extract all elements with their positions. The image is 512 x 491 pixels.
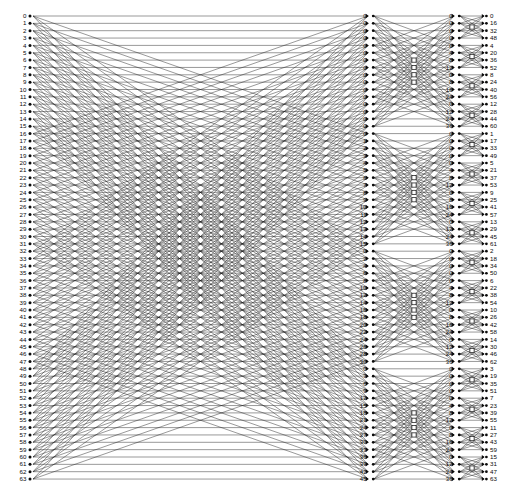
stage2-butterfly-junction — [412, 198, 416, 202]
output-index-label: 10 — [490, 306, 497, 313]
stage2-node — [372, 279, 375, 282]
stage3-node — [458, 397, 461, 400]
input-node — [29, 250, 32, 253]
output-index-label: 46 — [490, 350, 497, 357]
output-index-label: 44 — [490, 115, 497, 122]
stage2-twiddle-label: 12 — [360, 292, 367, 298]
stage3-node — [458, 478, 461, 481]
input-index-label: 40 — [20, 306, 27, 313]
output-index-label: 7 — [490, 394, 494, 401]
stage3-node — [458, 375, 461, 378]
stage2-node — [372, 404, 375, 407]
output-node — [485, 220, 488, 223]
input-node — [29, 44, 32, 47]
stage2-node — [372, 51, 375, 54]
input-node — [29, 463, 32, 466]
output-node — [485, 338, 488, 341]
output-node — [485, 118, 488, 121]
stage2-twiddle-label: 15 — [360, 403, 367, 409]
stage3-butterfly-junction — [470, 172, 474, 176]
input-node — [29, 242, 32, 245]
stage2-node — [372, 316, 375, 319]
input-index-label: 15 — [20, 122, 27, 129]
stage3-node — [458, 331, 461, 334]
stage3-twiddle-label: 36 — [446, 476, 453, 482]
stage3-node — [458, 213, 461, 216]
input-index-label: 46 — [20, 350, 27, 357]
input-node — [29, 191, 32, 194]
output-node — [485, 375, 488, 378]
stage3-twiddle-label: 12 — [446, 65, 453, 71]
stage3-butterfly-junction — [470, 231, 474, 235]
input-node — [29, 448, 32, 451]
stage2-butterfly-junction — [412, 73, 416, 77]
output-node — [485, 198, 488, 201]
output-index-label: 24 — [490, 78, 497, 85]
output-node — [485, 478, 488, 481]
stage2-butterfly-junction — [412, 176, 416, 180]
output-node — [485, 81, 488, 84]
stage2-node — [372, 22, 375, 25]
stage2-butterfly-junction — [412, 65, 416, 69]
output-index-label: 57 — [490, 211, 497, 218]
output-index-label: 61 — [490, 240, 497, 247]
stage3-node — [458, 110, 461, 113]
output-node — [485, 125, 488, 128]
fft-flow-diagram: 0123456789101112131415161718192021222324… — [0, 0, 512, 491]
output-index-label: 63 — [490, 475, 497, 482]
stage3-node — [458, 37, 461, 40]
stage3-twiddle-label: 24 — [446, 234, 453, 240]
output-node — [485, 257, 488, 260]
stage2-twiddle-label: 45 — [360, 476, 367, 482]
output-node — [485, 301, 488, 304]
input-node — [29, 456, 32, 459]
input-index-label: 48 — [20, 365, 27, 372]
output-index-label: 34 — [490, 262, 497, 269]
input-index-label: 17 — [20, 137, 27, 144]
input-node — [29, 154, 32, 157]
input-node — [29, 360, 32, 363]
stage2-butterfly-junction — [412, 418, 416, 422]
output-node — [485, 147, 488, 150]
stage2-node — [372, 29, 375, 32]
output-node — [485, 448, 488, 451]
stage2-twiddle-label: 26 — [360, 344, 367, 350]
stage2-butterfly-junction — [412, 80, 416, 84]
input-index-label: 43 — [20, 328, 27, 335]
output-index-label: 12 — [490, 100, 497, 107]
stage3-node — [458, 463, 461, 466]
input-index-label: 28 — [20, 218, 27, 225]
input-node — [29, 206, 32, 209]
stage3-node — [458, 412, 461, 415]
input-node — [29, 88, 32, 91]
input-index-label: 60 — [20, 453, 27, 460]
output-index-label: 41 — [490, 203, 497, 210]
stage2-node — [372, 162, 375, 165]
flow-graph-canvas: 0123456789101112131415161718192021222324… — [0, 0, 512, 491]
stage2-twiddle-label: 18 — [360, 410, 367, 416]
input-index-label: 16 — [20, 130, 27, 137]
stage3-node — [458, 265, 461, 268]
stage2-twiddle-label: 28 — [360, 351, 367, 357]
output-index-label: 3 — [490, 365, 494, 372]
output-index-label: 2 — [490, 247, 494, 254]
input-node — [29, 125, 32, 128]
stage3-node — [458, 118, 461, 121]
stage2-node — [372, 412, 375, 415]
stage2-twiddle-label: 21 — [360, 417, 367, 423]
output-node — [485, 59, 488, 62]
stage3-butterfly-junction — [470, 378, 474, 382]
input-index-label: 22 — [20, 174, 27, 181]
stage3-butterfly-junction — [470, 143, 474, 147]
stage3-node — [458, 176, 461, 179]
stage3-node — [458, 404, 461, 407]
input-node — [29, 95, 32, 98]
input-index-label: 12 — [20, 100, 27, 107]
output-node — [485, 323, 488, 326]
output-index-label: 15 — [490, 453, 497, 460]
output-index-label: 29 — [490, 225, 497, 232]
output-node — [485, 235, 488, 238]
stage3-node — [458, 140, 461, 143]
output-node — [485, 243, 488, 246]
stage2-node — [372, 382, 375, 385]
